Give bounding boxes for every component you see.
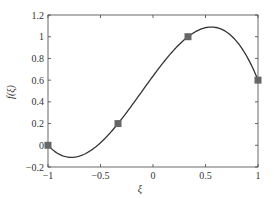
y-tick-label: 0 [39, 140, 44, 151]
x-tick-label: 0 [151, 170, 156, 181]
sample-marker [184, 33, 191, 40]
sample-marker [45, 142, 52, 149]
y-tick-label: 0.6 [32, 75, 45, 86]
x-tick-label: 0.5 [199, 170, 212, 181]
y-tick-label: −0.2 [26, 162, 44, 173]
y-tick-label: 1 [39, 31, 44, 42]
y-tick-label: 0.2 [32, 118, 45, 129]
x-tick-label: −1 [43, 170, 54, 181]
y-tick-label: 0.4 [32, 96, 45, 107]
sample-marker [255, 77, 262, 84]
line-chart: −1−0.500.51−0.200.20.40.60.811.2 ξ f(ξ) [0, 0, 274, 198]
chart-container: −1−0.500.51−0.200.20.40.60.811.2 ξ f(ξ) [0, 0, 274, 198]
sample-markers [45, 33, 262, 149]
y-tick-label: 0.8 [32, 53, 45, 64]
x-tick-label: −0.5 [91, 170, 109, 181]
x-axis-label: ξ [138, 183, 143, 195]
plot-frame [48, 15, 258, 167]
x-tick-label: 1 [256, 170, 261, 181]
sample-marker [115, 120, 122, 127]
y-tick-label: 1.2 [32, 10, 45, 21]
interpolant-curve [48, 27, 258, 157]
y-axis-label: f(ξ) [5, 84, 17, 98]
